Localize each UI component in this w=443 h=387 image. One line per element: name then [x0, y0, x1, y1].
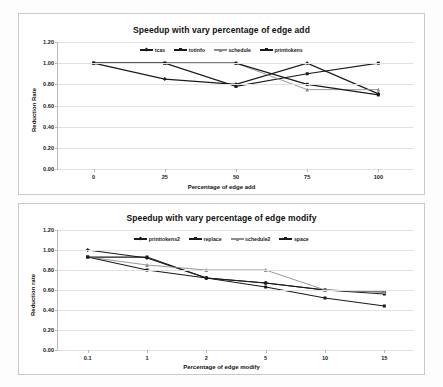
y-axis-tick-mark [55, 290, 58, 291]
legend-item-printtokens[interactable]: printtokens [260, 47, 303, 53]
chart1-x-axis-label: Percentage of edge add [19, 184, 424, 190]
y-axis-tick-label: 0.20 [43, 327, 54, 333]
chart1-plot-area: 0.000.200.400.600.801.001.200255075100 [57, 42, 414, 170]
y-gridline [58, 330, 414, 331]
legend-label: tcas [155, 47, 165, 53]
y-axis-tick-label: 0.60 [43, 103, 54, 109]
legend-swatch-icon [189, 238, 202, 239]
series-line-printtokens2 [88, 250, 385, 292]
y-axis-tick-label: 0.80 [43, 267, 54, 273]
series-line-schedule2 [88, 257, 385, 292]
y-axis-tick-mark [55, 169, 58, 170]
y-axis-tick-label: 0.40 [43, 307, 54, 313]
y-axis-tick-mark [55, 310, 58, 311]
y-axis-tick-mark [55, 350, 58, 351]
data-point-marker [86, 256, 89, 259]
data-point-marker [146, 256, 149, 259]
series-line-printtokens [94, 63, 379, 95]
legend-label: printtokens [274, 47, 302, 53]
y-axis-tick-mark [55, 84, 58, 85]
data-point-marker [264, 286, 267, 289]
y-axis-tick-label: 1.00 [43, 60, 54, 66]
chart1-y-axis-label: Reduction Rate [31, 88, 37, 132]
x-axis-tick-label: 50 [233, 174, 239, 180]
legend-marker-icon [194, 237, 197, 240]
chart1-legend: tcastotinfoscheduleprinttokens [19, 47, 424, 53]
legend-marker-icon [265, 48, 268, 51]
legend-item-tcas[interactable]: tcas [140, 47, 165, 53]
legend-label: replace [203, 236, 221, 242]
y-gridline [58, 106, 414, 107]
x-axis-tick-mark [206, 350, 207, 353]
legend-label: schedule2 [245, 236, 270, 242]
legend-swatch-icon [231, 238, 244, 239]
data-point-marker [163, 77, 167, 81]
y-gridline [58, 250, 414, 251]
data-point-marker [383, 305, 386, 308]
x-axis-tick-label: 25 [162, 174, 168, 180]
y-axis-tick-mark [55, 42, 58, 43]
x-axis-tick-mark [236, 169, 237, 172]
y-axis-tick-label: 0.00 [43, 166, 54, 172]
y-axis-tick-label: 1.20 [43, 227, 54, 233]
y-gridline [58, 63, 414, 64]
legend-label: space [294, 236, 309, 242]
data-point-marker [306, 72, 309, 75]
y-gridline [58, 290, 414, 291]
x-axis-tick-label: 1 [145, 355, 148, 361]
y-axis-tick-mark [55, 270, 58, 271]
x-axis-tick-label: 15 [381, 355, 387, 361]
x-axis-tick-label: 75 [304, 174, 310, 180]
y-axis-tick-mark [55, 63, 58, 64]
chart2-title: Speedup with vary percentage of edge mod… [19, 213, 424, 223]
legend-item-schedule2[interactable]: schedule2 [231, 236, 271, 242]
y-gridline [58, 127, 414, 128]
legend-label: totinfo [189, 47, 205, 53]
data-point-marker [377, 93, 380, 96]
y-axis-tick-mark [55, 127, 58, 128]
y-axis-tick-label: 0.60 [43, 287, 54, 293]
x-axis-tick-label: 10 [322, 355, 328, 361]
x-axis-tick-mark [378, 169, 379, 172]
x-axis-tick-mark [266, 350, 267, 353]
chart2-legend: printtokens2replaceschedule2space [19, 236, 424, 242]
chart1-title: Speedup with vary percentage of edge add [19, 25, 424, 35]
x-axis-tick-label: 2 [205, 355, 208, 361]
legend-marker-icon [219, 49, 222, 52]
x-axis-tick-mark [94, 169, 95, 172]
x-axis-tick-mark [165, 169, 166, 172]
legend-marker-icon [179, 48, 182, 51]
legend-label: schedule [228, 47, 251, 53]
y-axis-tick-mark [55, 330, 58, 331]
x-axis-tick-mark [88, 350, 89, 353]
legend-marker-icon [284, 237, 287, 240]
legend-marker-icon [139, 237, 143, 241]
legend-item-replace[interactable]: replace [189, 236, 222, 242]
y-gridline [58, 270, 414, 271]
legend-swatch-icon [134, 238, 147, 239]
y-gridline [58, 42, 414, 43]
y-axis-tick-mark [55, 148, 58, 149]
legend-item-schedule[interactable]: schedule [214, 47, 251, 53]
data-point-marker [264, 282, 267, 285]
y-axis-tick-label: 0.00 [43, 347, 54, 353]
legend-swatch-icon [214, 49, 227, 50]
y-gridline [58, 310, 414, 311]
chart2-plot-area: 0.000.200.400.600.801.001.200.11251015 [57, 230, 414, 351]
data-point-marker [324, 297, 327, 300]
series-line-space [88, 257, 385, 306]
x-axis-tick-label: 0.1 [84, 355, 92, 361]
y-gridline [58, 148, 414, 149]
x-axis-tick-mark [384, 350, 385, 353]
figure-page: Speedup with vary percentage of edge add… [0, 0, 443, 387]
legend-item-totinfo[interactable]: totinfo [174, 47, 205, 53]
legend-label: printtokens2 [149, 236, 180, 242]
x-axis-tick-mark [325, 350, 326, 353]
legend-item-printtokens2[interactable]: printtokens2 [134, 236, 180, 242]
legend-swatch-icon [279, 238, 292, 239]
x-axis-tick-label: 0 [92, 174, 95, 180]
x-axis-tick-label: 5 [264, 355, 267, 361]
legend-item-space[interactable]: space [279, 236, 308, 242]
y-axis-tick-label: 1.00 [43, 247, 54, 253]
y-gridline [58, 84, 414, 85]
